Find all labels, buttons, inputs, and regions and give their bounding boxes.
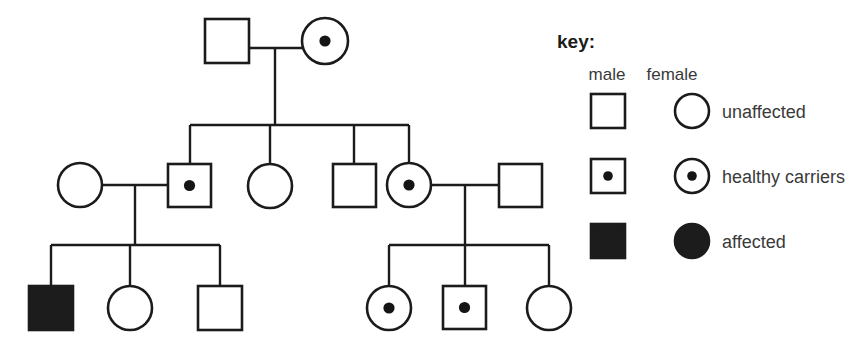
key-title: key:: [557, 31, 595, 52]
individual-III-3-male-unaffected[interactable]: [198, 286, 242, 330]
circle-symbol: [248, 164, 292, 208]
carrier-dot-icon: [459, 302, 470, 313]
circle-symbol: [108, 286, 152, 330]
square-symbol: [499, 164, 542, 207]
individual-II-1-female-unaffected[interactable]: [58, 163, 102, 207]
key-label-affected: affected: [722, 232, 786, 252]
individual-III-6-female-unaffected[interactable]: [527, 286, 571, 330]
individual-III-5-male-carrier[interactable]: [443, 286, 486, 329]
key-column-header-male: male: [589, 65, 626, 84]
individual-II-2-male-carrier[interactable]: [168, 164, 211, 207]
individual-II-6-male-unaffected[interactable]: [499, 164, 542, 207]
individual-III-4-female-carrier[interactable]: [367, 286, 411, 330]
carrier-dot-icon: [403, 179, 414, 190]
individual-II-4-male-unaffected[interactable]: [333, 164, 376, 207]
key-circle-carrier-dot-icon: [687, 171, 697, 181]
individual-III-2-female-unaffected[interactable]: [108, 286, 152, 330]
key-circle-unaffected-icon: [675, 94, 709, 128]
individual-I-1-male-unaffected[interactable]: [205, 19, 249, 63]
circle-symbol: [58, 163, 102, 207]
pedigree-canvas: key: male female unaffected healthy carr…: [0, 0, 860, 346]
carrier-dot-icon: [383, 302, 394, 313]
key-square-unaffected-icon: [591, 94, 625, 128]
key-column-header-female: female: [646, 65, 697, 84]
individual-I-2-female-carrier[interactable]: [302, 18, 348, 64]
square-symbol-filled: [29, 286, 73, 330]
square-symbol: [333, 164, 376, 207]
key-square-carrier-dot-icon: [603, 171, 613, 181]
key-label-carrier: healthy carriers: [722, 167, 845, 187]
individual-II-5-female-carrier[interactable]: [387, 163, 431, 207]
carrier-dot-icon: [184, 180, 195, 191]
individual-II-3-female-unaffected[interactable]: [248, 164, 292, 208]
circle-symbol: [527, 286, 571, 330]
pedigree-figure: key: male female unaffected healthy carr…: [0, 0, 860, 346]
key-circle-affected-icon: [675, 224, 709, 258]
carrier-dot-icon: [319, 35, 330, 46]
square-symbol: [198, 286, 242, 330]
individual-III-1-male-affected[interactable]: [29, 286, 73, 330]
key-square-affected-icon: [591, 224, 625, 258]
square-symbol: [205, 19, 249, 63]
key-label-unaffected: unaffected: [722, 102, 806, 122]
